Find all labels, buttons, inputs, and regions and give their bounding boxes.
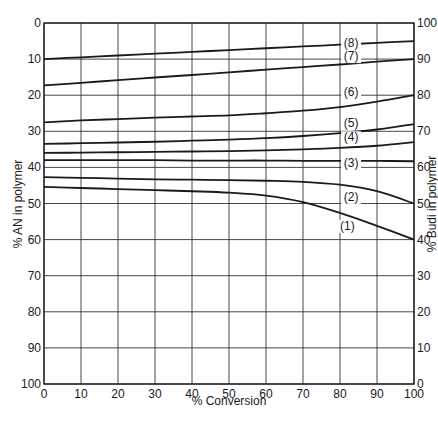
x-tick-label: 70 bbox=[296, 387, 310, 401]
left-tick-label: 10 bbox=[28, 52, 42, 66]
x-axis-title: % Conversion bbox=[192, 394, 267, 408]
curve-label: (1) bbox=[340, 219, 355, 233]
left-tick-label: 50 bbox=[28, 197, 42, 211]
x-tick-label: 30 bbox=[148, 387, 162, 401]
right-tick-label: 90 bbox=[417, 52, 431, 66]
right-tick-label: 80 bbox=[417, 88, 431, 102]
x-tick-label: 0 bbox=[41, 387, 48, 401]
x-tick-label: 80 bbox=[333, 387, 347, 401]
left-tick-label: 60 bbox=[28, 233, 42, 247]
curve-label: (3) bbox=[344, 156, 359, 170]
right-tick-label: 30 bbox=[417, 269, 431, 283]
left-tick-label: 90 bbox=[28, 341, 42, 355]
x-tick-label: 10 bbox=[74, 387, 88, 401]
left-tick-label: 100 bbox=[21, 377, 41, 391]
curve-label: (7) bbox=[344, 49, 359, 63]
left-tick-label: 30 bbox=[28, 124, 42, 138]
left-tick-label: 70 bbox=[28, 269, 42, 283]
curve-label: (6) bbox=[344, 85, 359, 99]
x-tick-label: 90 bbox=[370, 387, 384, 401]
left-tick-label: 40 bbox=[28, 160, 42, 174]
x-tick-label: 100 bbox=[404, 387, 424, 401]
curve-label: (8) bbox=[344, 36, 359, 50]
left-tick-label: 80 bbox=[28, 305, 42, 319]
right-tick-label: 20 bbox=[417, 305, 431, 319]
curve-label: (4) bbox=[344, 130, 359, 144]
left-axis-title: % AN in polymer bbox=[11, 160, 25, 249]
curve-label: (2) bbox=[344, 190, 359, 204]
right-tick-label: 100 bbox=[417, 16, 437, 30]
left-tick-label: 20 bbox=[28, 88, 42, 102]
x-tick-label: 20 bbox=[111, 387, 125, 401]
right-tick-label: 70 bbox=[417, 124, 431, 138]
right-axis-title: % Budi in polymer bbox=[425, 156, 438, 253]
curve-label: (5) bbox=[344, 116, 359, 130]
copolymer-composition-chart: 0102030405060708090100 10090807060504030… bbox=[0, 0, 438, 426]
left-tick-label: 0 bbox=[34, 16, 41, 30]
right-tick-label: 10 bbox=[417, 341, 431, 355]
